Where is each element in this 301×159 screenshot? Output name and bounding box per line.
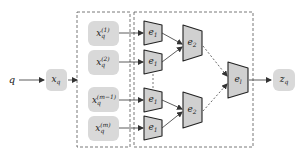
encoder-el-label: el bbox=[234, 75, 241, 86]
encoder-e2-2-label: e2 bbox=[187, 105, 196, 116]
split-node-4-label: xq(m) bbox=[95, 122, 110, 135]
encoder-e1-2-label: e1 bbox=[148, 57, 157, 68]
output-node-label: zq bbox=[280, 75, 289, 86]
encoder-e1-1-label: e1 bbox=[148, 28, 157, 39]
split-node-1-label: xq(1) bbox=[96, 27, 109, 40]
query-node-label: xq bbox=[52, 75, 61, 86]
encoder-e2-1-label: e2 bbox=[187, 38, 196, 49]
diagram-canvas bbox=[0, 0, 301, 159]
split-node-2-label: xq(2) bbox=[96, 56, 109, 69]
encoder-e1-4-label: e1 bbox=[148, 123, 157, 134]
split-node-3-label: xq(m−1) bbox=[92, 94, 116, 107]
encoder-e1-3-label: e1 bbox=[148, 95, 157, 106]
input-label: q bbox=[9, 75, 15, 85]
